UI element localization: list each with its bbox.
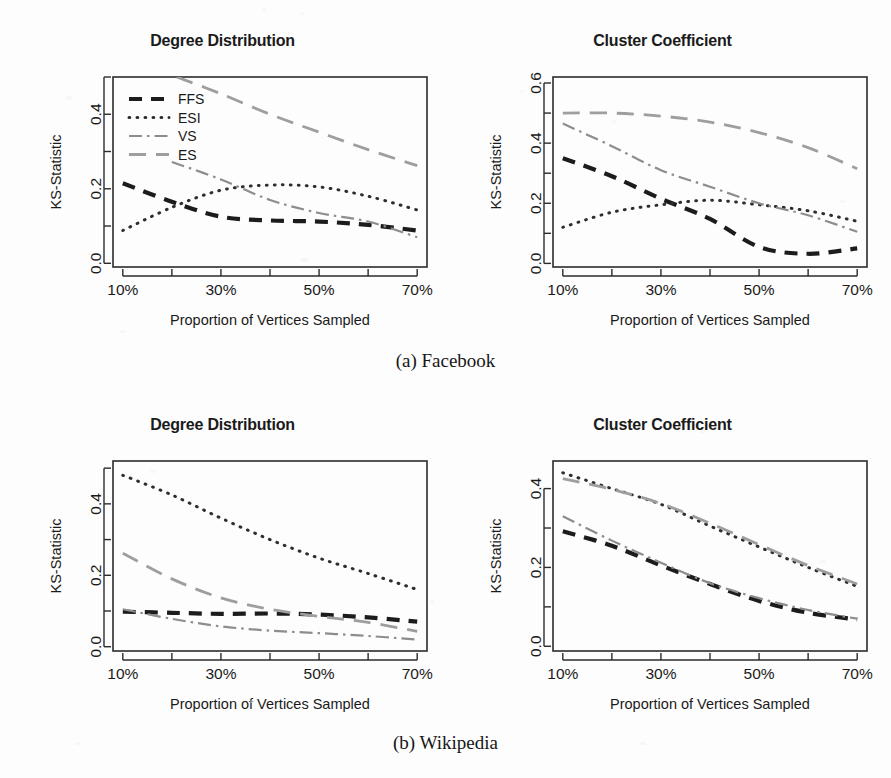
plot-frame — [553, 461, 867, 651]
chart-title: Cluster Coefficient — [440, 416, 885, 434]
y-tick-label: 0.0 — [528, 252, 545, 274]
y-tick-label: 0.2 — [528, 192, 545, 214]
figure-container: Degree Distribution 0.00.20.410%30%50%70… — [0, 0, 891, 778]
chart-wikipedia-degree-distribution: Degree Distribution 0.00.20.410%30%50%70… — [0, 398, 445, 728]
y-tick-label: 0.2 — [88, 178, 105, 200]
x-tick-label: 50% — [744, 665, 775, 682]
chart-facebook-degree-distribution: Degree Distribution 0.00.20.410%30%50%70… — [0, 14, 445, 344]
figure-row-wikipedia: Degree Distribution 0.00.20.410%30%50%70… — [0, 398, 891, 738]
y-tick-label: 0.0 — [88, 252, 105, 274]
y-axis: 0.00.20.40.6 — [528, 72, 552, 274]
subfigure-caption-a: (a) Facebook — [0, 350, 891, 372]
figure-row-facebook: Degree Distribution 0.00.20.410%30%50%70… — [0, 14, 891, 354]
x-tick-label: 70% — [842, 281, 873, 298]
subfigure-caption-b: (b) Wikipedia — [0, 732, 891, 754]
x-axis: 10%30%50%70% — [547, 653, 873, 682]
y-tick-label: 0.2 — [88, 565, 105, 587]
x-axis-title: Proportion of Vertices Sampled — [170, 312, 370, 328]
chart-facebook-cluster-coefficient: Cluster Coefficient 0.00.20.40.610%30%50… — [440, 14, 885, 344]
y-axis: 0.00.20.4 — [88, 77, 112, 274]
x-tick-label: 10% — [547, 665, 578, 682]
x-tick-label: 70% — [402, 281, 433, 298]
x-axis: 10%30%50%70% — [107, 269, 433, 298]
y-axis-title: KS-Statistic — [48, 519, 64, 594]
x-tick-label: 10% — [107, 281, 138, 298]
series-line-esi — [123, 475, 417, 589]
chart-svg: 0.00.20.410%30%50%70%Proportion of Verti… — [0, 14, 445, 344]
series-group — [123, 77, 417, 237]
series-line-ffs — [563, 158, 857, 254]
y-axis-title: KS-Statistic — [488, 519, 504, 594]
series-group — [123, 475, 417, 639]
chart-legend: FFSESIVSES — [129, 91, 204, 163]
series-line-vs — [172, 162, 417, 237]
x-axis-title: Proportion of Vertices Sampled — [170, 696, 370, 712]
y-tick-label: 0.4 — [88, 103, 105, 125]
chart-svg: 0.00.20.410%30%50%70%Proportion of Verti… — [440, 398, 885, 728]
chart-svg: 0.00.20.40.610%30%50%70%Proportion of Ve… — [440, 14, 885, 344]
y-tick-label: 0.6 — [528, 72, 545, 94]
series-line-ffs — [123, 612, 417, 622]
series-group — [563, 113, 857, 254]
plot-frame — [113, 77, 427, 267]
plot-frame — [553, 77, 867, 267]
scan-artifact — [262, 8, 267, 11]
x-axis: 10%30%50%70% — [107, 653, 433, 682]
legend-label-es: ES — [178, 147, 197, 163]
legend-label-vs: VS — [178, 128, 197, 144]
y-tick-label: 0.2 — [528, 557, 545, 579]
series-group — [563, 473, 857, 620]
x-axis: 10%30%50%70% — [547, 269, 873, 298]
chart-wikipedia-cluster-coefficient: Cluster Coefficient 0.00.20.410%30%50%70… — [440, 398, 885, 728]
x-tick-label: 30% — [205, 665, 236, 682]
y-axis: 0.00.20.4 — [88, 468, 112, 657]
series-line-esi — [563, 200, 857, 227]
legend-label-esi: ESI — [178, 110, 201, 126]
y-tick-label: 0.4 — [88, 493, 105, 515]
x-tick-label: 50% — [304, 281, 335, 298]
y-axis-title: KS-Statistic — [488, 135, 504, 210]
x-tick-label: 10% — [107, 665, 138, 682]
series-line-es — [177, 77, 417, 166]
series-line-ffs — [563, 531, 857, 619]
chart-plot-area: 0.00.20.410%30%50%70%Proportion of Verti… — [0, 398, 445, 728]
series-line-es — [563, 113, 857, 169]
series-line-vs — [123, 609, 417, 639]
legend-label-ffs: FFS — [178, 91, 204, 107]
y-axis-title: KS-Statistic — [48, 135, 64, 210]
x-tick-label: 30% — [645, 281, 676, 298]
x-tick-label: 10% — [547, 281, 578, 298]
series-line-vs — [563, 124, 857, 232]
y-tick-label: 0.0 — [88, 636, 105, 658]
chart-plot-area: 0.00.20.40.610%30%50%70%Proportion of Ve… — [440, 14, 885, 344]
series-line-vs — [563, 516, 857, 618]
x-tick-label: 30% — [205, 281, 236, 298]
y-tick-label: 0.4 — [528, 477, 545, 499]
chart-title: Degree Distribution — [0, 416, 445, 434]
chart-plot-area: 0.00.20.410%30%50%70%Proportion of Verti… — [440, 398, 885, 728]
series-line-es — [563, 479, 857, 584]
x-axis-title: Proportion of Vertices Sampled — [610, 312, 810, 328]
chart-title: Cluster Coefficient — [440, 32, 885, 50]
y-tick-label: 0.0 — [528, 635, 545, 657]
y-tick-label: 0.4 — [528, 132, 545, 154]
y-axis: 0.00.20.4 — [528, 477, 552, 657]
series-line-esi — [563, 473, 857, 587]
x-tick-label: 70% — [402, 665, 433, 682]
chart-title: Degree Distribution — [0, 32, 445, 50]
x-tick-label: 70% — [842, 665, 873, 682]
x-tick-label: 50% — [304, 665, 335, 682]
x-axis-title: Proportion of Vertices Sampled — [610, 696, 810, 712]
x-tick-label: 30% — [645, 665, 676, 682]
chart-plot-area: 0.00.20.410%30%50%70%Proportion of Verti… — [0, 14, 445, 344]
x-tick-label: 50% — [744, 281, 775, 298]
chart-svg: 0.00.20.410%30%50%70%Proportion of Verti… — [0, 398, 445, 728]
